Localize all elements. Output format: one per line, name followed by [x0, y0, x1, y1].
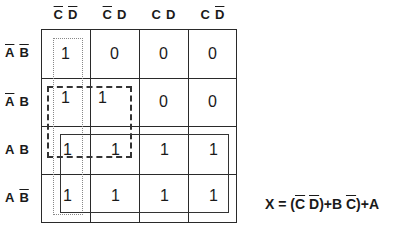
equation-part: C	[346, 196, 356, 212]
kmap-cell: 0	[139, 30, 188, 78]
label-b: B	[19, 45, 28, 60]
column-label-cbar-d: CD	[90, 7, 139, 22]
row-label-a-b: AB	[5, 126, 39, 174]
kmap-cell: 1	[91, 126, 140, 174]
label-a: A	[5, 142, 14, 157]
label-c: C	[201, 7, 210, 22]
label-c: C	[54, 7, 63, 22]
column-label-c-d: CD	[139, 7, 188, 22]
kmap-cell: 1	[78, 74, 127, 122]
column-label-cbar-dbar: CD	[41, 7, 90, 22]
column-label-c-dbar: CD	[188, 7, 237, 22]
label-c: C	[103, 7, 112, 22]
equation-part: )+A	[356, 196, 379, 212]
kmap-cell: 1	[189, 172, 238, 220]
kmap-cell: 1	[140, 172, 189, 220]
equation-equals: =	[274, 196, 290, 212]
kmap-cell: 1	[43, 126, 92, 174]
kmap-cell: 0	[188, 78, 237, 126]
equation-part: C	[295, 196, 305, 212]
kmap-cell: 0	[139, 78, 188, 126]
kmap-cell: 0	[90, 30, 139, 78]
label-d: D	[68, 7, 77, 22]
row-label-abar-bbar: AB	[5, 29, 39, 77]
equation-part: D	[309, 196, 319, 212]
label-c: C	[152, 7, 161, 22]
equation-part: )+B	[319, 196, 346, 212]
kmap-cell: 0	[188, 30, 237, 78]
label-b: B	[19, 94, 28, 109]
kmap-cell: 1	[41, 30, 90, 78]
label-d: D	[117, 7, 126, 22]
kmap-cell: 1	[43, 172, 92, 220]
boolean-equation: X = (C D)+B C)+A	[265, 196, 379, 212]
label-d: D	[166, 7, 175, 22]
label-b: B	[19, 142, 28, 157]
kmap-cell: 1	[91, 172, 140, 220]
row-label-a-bbar: AB	[5, 174, 39, 222]
label-a: A	[5, 190, 14, 205]
row-label-abar-b: AB	[5, 78, 39, 126]
kmap-cell: 1	[140, 126, 189, 174]
label-b: B	[19, 190, 28, 205]
label-a: A	[5, 45, 14, 60]
kmap-cell: 1	[189, 126, 238, 174]
label-a: A	[5, 94, 14, 109]
equation-lhs: X	[265, 196, 274, 212]
label-d: D	[215, 7, 224, 22]
